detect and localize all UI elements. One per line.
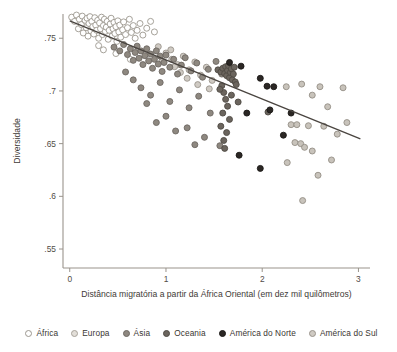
legend-item-1[interactable]: Europa [71,328,109,338]
data-point [194,60,200,66]
data-point [171,56,177,62]
data-point [235,99,241,105]
data-point [233,82,239,88]
data-point [123,32,129,38]
data-point [128,29,134,35]
data-point [140,32,146,38]
data-point [182,55,188,61]
chart-legend: ÁfricaEuropaÁsiaOceaniaAmérica do NorteA… [0,322,397,344]
x-tick-label: 0 [67,274,72,284]
legend-marker-icon [123,330,130,337]
legend-label: América do Norte [230,328,296,338]
data-point [340,85,346,91]
data-point [184,75,190,81]
data-point [138,85,144,91]
data-point [151,29,157,35]
axis-labels-layer: .55.6.65.7.750123Distância migratória a … [12,33,361,299]
data-point [302,144,308,150]
legend-item-5[interactable]: América do Sul [309,328,378,338]
data-point [124,52,130,58]
data-point [236,152,242,158]
legend-item-3[interactable]: Oceania [163,328,206,338]
data-point [142,53,148,59]
data-point [196,93,202,99]
legend-marker-icon [309,330,316,337]
data-point [144,101,150,107]
data-point [163,52,169,58]
data-point [300,198,306,204]
legend-marker-icon [219,330,226,337]
data-point [168,47,174,53]
legend-item-4[interactable]: América do Norte [219,328,296,338]
data-point [309,92,315,98]
data-point [186,105,192,111]
legend-item-0[interactable]: África [25,328,58,338]
legend-label: África [36,328,58,338]
chart-figure: .55.6.65.7.750123Distância migratória a … [0,0,397,352]
data-point [148,18,154,24]
data-point [153,48,159,54]
y-axis-title: Diversidade [12,118,22,164]
data-point [195,82,201,88]
legend-label: Oceania [174,328,206,338]
data-point [299,81,305,87]
data-point [175,71,181,77]
x-tick-label: 1 [164,274,169,284]
data-point [257,75,263,81]
scatter-plot: .55.6.65.7.750123Distância migratória a … [0,0,397,312]
data-point [111,44,117,50]
data-point [132,35,138,41]
data-point [231,64,237,70]
data-point [167,98,173,104]
data-point [155,61,161,67]
data-point [148,92,154,98]
legend-marker-icon [71,330,78,337]
data-point [163,113,169,119]
data-point [221,137,227,143]
legend-marker-icon [25,330,32,337]
data-point [96,43,102,49]
data-point [305,123,311,129]
data-point [264,83,270,89]
axis-layer [59,14,370,272]
legend-label: Europa [82,328,109,338]
series-5 [283,81,350,203]
y-tick-label: .7 [49,86,56,96]
data-point [201,134,207,140]
data-point [176,87,182,93]
data-point [292,140,298,146]
y-tick-label: .65 [44,139,56,149]
data-point [224,130,230,136]
data-point [222,145,228,151]
data-point [132,49,138,55]
y-tick-label: .6 [49,191,56,201]
data-point [123,69,129,75]
legend-item-2[interactable]: Ásia [123,328,151,338]
data-point [283,84,289,90]
data-point [284,160,290,166]
data-point [267,107,273,113]
data-point [228,92,234,98]
data-point [134,27,140,33]
data-point [230,71,236,77]
data-point [184,125,190,131]
data-point [130,57,136,63]
x-axis-title: Distância migratória a partir da África … [81,289,351,299]
data-point [217,86,223,92]
legend-marker-icon [163,330,170,337]
data-point [205,66,211,72]
data-point [257,165,263,171]
data-point [280,132,286,138]
data-point [288,122,294,128]
data-point [130,77,136,83]
trendline-layer [70,21,361,139]
data-point [159,68,165,74]
data-point [344,120,350,126]
data-point [317,84,323,90]
data-point [117,48,123,54]
data-point [173,128,179,134]
data-point [223,96,229,102]
data-point [150,65,156,71]
data-point [167,64,173,70]
data-point [146,58,152,64]
